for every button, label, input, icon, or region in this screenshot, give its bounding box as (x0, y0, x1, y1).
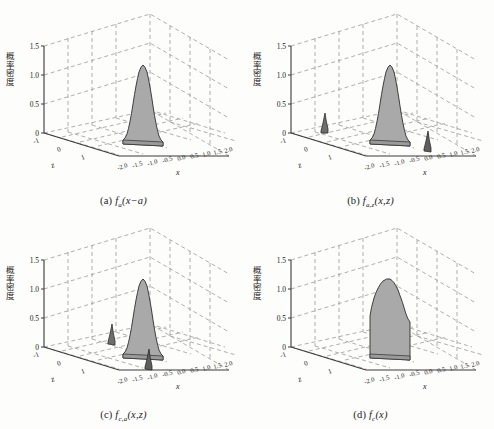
z-tick-labels-a: -1 0 1 (32, 136, 86, 162)
svg-text:0.5: 0.5 (436, 151, 446, 160)
peak-right-small-b (424, 131, 431, 152)
caption-b-index: (b) (347, 195, 360, 206)
svg-text:0: 0 (303, 145, 309, 154)
caption-d: (d) fc(x) (247, 409, 494, 423)
svg-text:1.0: 1.0 (277, 71, 287, 80)
caption-b: (b) fa,z(x,z) (247, 195, 494, 209)
svg-text:-0.5: -0.5 (408, 154, 420, 164)
caption-d-args: (x) (375, 409, 387, 420)
svg-text:-1: -1 (279, 136, 288, 146)
svg-text:-1: -1 (279, 350, 288, 360)
plot-a: 1.5 1.0 0.5 0 -1 0 1 z -2.0 -1.5 -1.0 -0… (0, 0, 247, 214)
svg-text:0.0: 0.0 (423, 153, 433, 162)
x-tick-labels-a: -2.0 -1.5 -1.0 -0.5 0.0 0.5 1.0 1.5 2.0 (116, 145, 233, 171)
svg-text:0: 0 (56, 145, 62, 154)
z-axis-label-b: z (296, 160, 304, 170)
panel-b: 概率密度 (247, 0, 494, 214)
svg-text:1.0: 1.0 (30, 71, 40, 80)
x-tick-labels-d: -2.0 -1.5 -1.0 -0.5 0.0 0.5 1.0 1.5 2.0 (363, 359, 480, 385)
peak-main-d (370, 279, 410, 360)
svg-text:-2.0: -2.0 (116, 161, 128, 171)
svg-text:-1: -1 (32, 136, 41, 146)
caption-a: (a) fa(x−a) (0, 195, 247, 209)
peak-main-b (370, 65, 410, 146)
y-tick-labels-b: 1.5 1.0 0.5 0 (277, 42, 287, 138)
x-axis-label-c: x (175, 382, 180, 391)
peak-left-small-b (321, 113, 328, 133)
svg-text:1.5: 1.5 (30, 42, 40, 51)
svg-text:-1.5: -1.5 (131, 159, 143, 169)
x-axis-label-a: x (175, 168, 180, 177)
svg-text:1: 1 (80, 153, 86, 162)
y-tick-labels-c: 1.5 1.0 0.5 0 (30, 256, 40, 352)
plot-b: 1.5 1.0 0.5 0 -1 0 1 z -2.0 -1.5 -1.0 -0… (247, 0, 494, 214)
svg-text:-1: -1 (32, 350, 41, 360)
svg-text:1.5: 1.5 (277, 256, 287, 265)
z-axis-label-c: z (49, 374, 57, 384)
caption-b-sub: a,z (366, 201, 375, 209)
svg-text:0: 0 (303, 359, 309, 368)
svg-text:-1.5: -1.5 (131, 373, 143, 383)
svg-text:0.0: 0.0 (176, 367, 186, 376)
x-axis-label-d: x (422, 382, 427, 391)
plot-c: 1.5 1.0 0.5 0 -1 0 1 z -2.0 -1.5 -1.0 -0… (0, 214, 247, 429)
plot-d: 1.5 1.0 0.5 0 -1 0 1 z -2.0 -1.5 -1.0 -0… (247, 214, 494, 429)
svg-text:-1.5: -1.5 (378, 159, 390, 169)
svg-text:1.0: 1.0 (201, 363, 211, 372)
svg-text:2.0: 2.0 (223, 359, 233, 368)
z-axis-label-a: z (49, 160, 57, 170)
svg-text:0.5: 0.5 (189, 151, 199, 160)
z-tick-labels-d: -1 0 1 (279, 350, 333, 376)
svg-text:1.5: 1.5 (459, 361, 469, 370)
svg-text:1.0: 1.0 (448, 149, 458, 158)
svg-text:1.5: 1.5 (459, 147, 469, 156)
svg-text:0.5: 0.5 (277, 314, 287, 323)
svg-text:1.5: 1.5 (212, 361, 222, 370)
caption-a-index: (a) (100, 195, 112, 206)
svg-text:1.5: 1.5 (277, 42, 287, 51)
svg-text:0.0: 0.0 (423, 367, 433, 376)
svg-text:-2.0: -2.0 (363, 375, 375, 385)
svg-text:-1.5: -1.5 (378, 373, 390, 383)
svg-text:0.5: 0.5 (30, 314, 40, 323)
peak-main-c (123, 279, 163, 360)
svg-text:0: 0 (56, 359, 62, 368)
x-tick-labels-c: -2.0 -1.5 -1.0 -0.5 0.0 0.5 1.0 1.5 2.0 (116, 359, 233, 385)
svg-text:-0.5: -0.5 (161, 154, 173, 164)
z-tick-labels-c: -1 0 1 (32, 350, 86, 376)
y-tick-labels-d: 1.5 1.0 0.5 0 (277, 256, 287, 352)
caption-b-args: (x,z) (375, 195, 394, 206)
svg-text:0.0: 0.0 (176, 153, 186, 162)
svg-text:0.5: 0.5 (277, 100, 287, 109)
caption-d-index: (d) (353, 409, 366, 420)
svg-text:1.0: 1.0 (30, 285, 40, 294)
svg-text:1: 1 (327, 367, 333, 376)
svg-text:-2.0: -2.0 (116, 375, 128, 385)
peak-left-small-c (108, 324, 115, 345)
svg-text:1.0: 1.0 (277, 285, 287, 294)
svg-text:1: 1 (327, 153, 333, 162)
svg-text:-2.0: -2.0 (363, 161, 375, 171)
figure-grid: 概率密度 (0, 0, 494, 429)
svg-text:2.0: 2.0 (470, 359, 480, 368)
svg-text:-1.0: -1.0 (393, 371, 405, 381)
caption-c-index: (c) (100, 409, 112, 420)
caption-c: (c) fc,a(x,z) (0, 409, 247, 423)
z-tick-labels-b: -1 0 1 (279, 136, 333, 162)
svg-text:-0.5: -0.5 (161, 368, 173, 378)
y-tick-labels-a: 1.5 1.0 0.5 0 (30, 42, 40, 138)
svg-text:0.5: 0.5 (189, 365, 199, 374)
caption-c-args: (x,z) (127, 409, 146, 420)
panel-c: 概率密度 (0, 214, 247, 428)
svg-text:1.0: 1.0 (201, 149, 211, 158)
svg-text:2.0: 2.0 (223, 145, 233, 154)
svg-text:0.5: 0.5 (436, 365, 446, 374)
svg-text:1.0: 1.0 (448, 363, 458, 372)
peak-main-a (123, 65, 163, 146)
caption-a-args: (x−a) (122, 195, 147, 206)
svg-text:1.5: 1.5 (212, 147, 222, 156)
svg-text:-1.0: -1.0 (146, 371, 158, 381)
svg-text:-1.0: -1.0 (393, 157, 405, 167)
svg-text:1: 1 (80, 367, 86, 376)
x-tick-labels-b: -2.0 -1.5 -1.0 -0.5 0.0 0.5 1.0 1.5 2.0 (363, 145, 480, 171)
